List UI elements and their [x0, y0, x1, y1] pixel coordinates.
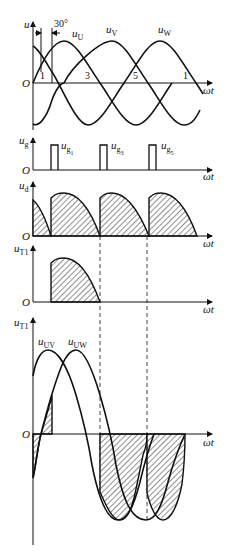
label-uUW: uUW: [68, 335, 87, 350]
x-axis-label: ωt: [203, 237, 215, 249]
point-3: 3: [85, 70, 90, 81]
pulse-g5: [149, 145, 156, 170]
pulse-g3: [100, 145, 107, 170]
pulse-g1: [51, 145, 58, 170]
point-1: 1: [40, 70, 45, 81]
label-ug5: ug5: [161, 139, 174, 156]
point-5: 5: [133, 70, 138, 81]
uT1-area-2: [100, 434, 147, 520]
origin-label: O: [22, 164, 30, 176]
panel-output-voltage: ud O ωt: [19, 179, 215, 249]
ud-segment-2: [100, 193, 149, 236]
thyristor-rectifier-waveform-diagram: u O ωt 30° uU uV uW 1 3 5 1 ug O ωt ug1 …: [0, 0, 229, 553]
label-uV: uV: [106, 23, 118, 38]
y-axis-label: ug: [19, 134, 29, 149]
label-uW: uW: [158, 23, 172, 38]
origin-label: O: [22, 77, 30, 89]
origin-label: O: [22, 296, 30, 308]
x-axis-label: ωt: [203, 170, 215, 182]
origin-label: O: [22, 230, 30, 242]
ud-segment-3: [149, 193, 197, 236]
panel-thyristor-conduction: uT1 O ωt: [14, 242, 215, 315]
point-1b: 1: [183, 70, 188, 81]
panel-phase-voltages: u O ωt 30° uU uV uW 1 3 5 1: [22, 18, 215, 130]
label-uUV: uUV: [38, 335, 55, 350]
y-axis-label: ud: [19, 179, 29, 194]
y-axis-label: uT1: [14, 242, 28, 257]
y-axis-label: u: [24, 18, 30, 30]
ud-segment-0: [33, 200, 51, 236]
angle-annotation: 30°: [54, 18, 68, 29]
label-ug1: ug1: [61, 139, 74, 156]
ud-segment-1: [51, 193, 100, 236]
panel-thyristor-voltage: uT1 O ωt uUV uUW: [14, 316, 215, 545]
x-axis-label: ωt: [203, 303, 215, 315]
label-ug3: ug3: [111, 139, 124, 156]
x-axis-label: ωt: [203, 436, 215, 448]
uT1-conduction-area: [51, 258, 100, 302]
label-uU: uU: [72, 27, 84, 42]
y-axis-label: uT1: [14, 316, 28, 331]
origin-label: O: [22, 428, 30, 440]
panel-gate-pulses: ug O ωt ug1 ug3 ug5: [19, 134, 215, 182]
x-axis-label: ωt: [203, 84, 215, 96]
